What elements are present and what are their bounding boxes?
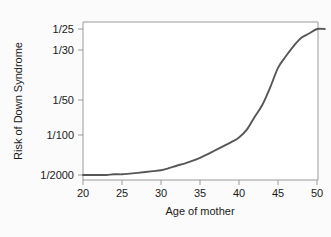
x-tick-label-45: 45 <box>272 187 284 199</box>
y-tick-label-1-25: 1/25 <box>53 23 74 35</box>
x-tick-label-50: 50 <box>311 187 323 199</box>
x-tick-label-40: 40 <box>233 187 245 199</box>
x-tick-label-30: 30 <box>155 187 167 199</box>
x-tick-label-25: 25 <box>116 187 128 199</box>
plot-area-background <box>83 22 318 180</box>
y-tick-label-1-30: 1/30 <box>53 44 74 56</box>
y-axis-title: Risk of Down Syndrome <box>12 42 24 160</box>
risk-line-chart: 1/25 1/30 1/50 1/100 1/2000 20 25 30 35 … <box>0 0 331 237</box>
y-tick-label-1-2000: 1/2000 <box>40 169 74 181</box>
x-axis-title: Age of mother <box>165 205 234 217</box>
y-tick-label-1-100: 1/100 <box>46 129 74 141</box>
x-tick-label-20: 20 <box>77 187 89 199</box>
x-tick-label-35: 35 <box>194 187 206 199</box>
y-tick-label-1-50: 1/50 <box>53 94 74 106</box>
chart-figure: 1/25 1/30 1/50 1/100 1/2000 20 25 30 35 … <box>0 0 331 237</box>
